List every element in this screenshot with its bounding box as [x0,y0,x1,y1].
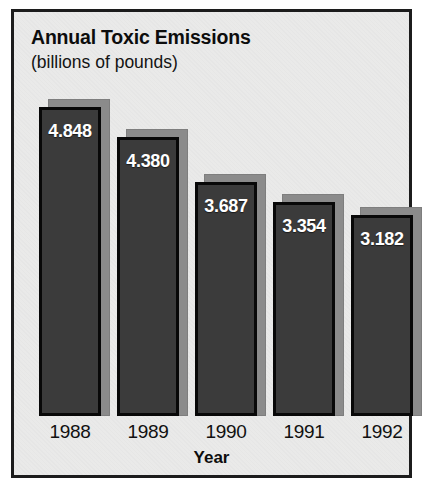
plot-area: 4.84819884.38019893.68719903.35419913.18… [14,12,409,475]
bar-group: 3.354 [273,12,335,416]
bar-1989[interactable]: 4.380 [117,137,179,416]
bar-1988[interactable]: 4.848 [39,107,101,416]
bar-1991[interactable]: 3.354 [273,202,335,416]
x-tick-label-1988: 1988 [39,421,101,443]
bar-value-label: 3.354 [276,216,332,237]
x-tick-label-1989: 1989 [117,421,179,443]
chart-subtitle: (billions of pounds) [31,51,251,73]
bar-value-label: 3.687 [198,196,254,217]
bar-group: 3.182 [351,12,413,416]
chart-figure: Annual Toxic Emissions (billions of poun… [0,0,424,492]
bar-value-label: 3.182 [354,229,410,250]
bar-value-label: 4.848 [42,121,98,142]
x-tick-label-1992: 1992 [351,421,413,443]
x-axis-label: Year [14,448,409,468]
title-block: Annual Toxic Emissions (billions of poun… [31,26,251,73]
bar-1992[interactable]: 3.182 [351,215,413,416]
bar-1990[interactable]: 3.687 [195,182,257,416]
chart-title: Annual Toxic Emissions [31,26,251,49]
x-tick-label-1990: 1990 [195,421,257,443]
x-tick-label-1991: 1991 [273,421,335,443]
chart-frame: Annual Toxic Emissions (billions of poun… [11,9,412,478]
bar-value-label: 4.380 [120,151,176,172]
